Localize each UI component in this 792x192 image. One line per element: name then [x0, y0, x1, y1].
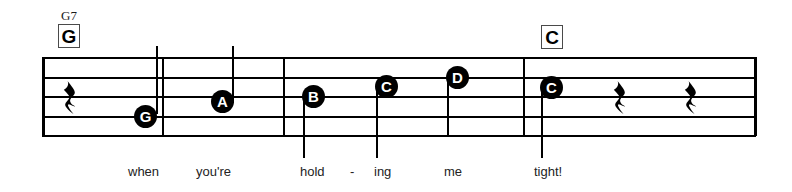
lyric-me: me: [444, 165, 462, 178]
barline-2: [283, 57, 285, 136]
note-g: G: [134, 105, 157, 128]
note-a-stem: [232, 46, 234, 103]
note-c-end-stem: [541, 86, 543, 158]
lyric-hold: hold: [300, 165, 325, 178]
note-c-mid-stem: [376, 85, 378, 158]
lyric-tight: tight!: [534, 165, 562, 178]
note-d: D: [446, 66, 469, 89]
rest-2: [613, 80, 629, 121]
rest-1: [63, 80, 79, 121]
staff-line-3: [42, 96, 756, 98]
staff-line-5: [42, 135, 756, 137]
barline-end: [754, 57, 757, 136]
staff-line-2: [42, 77, 756, 79]
note-a: A: [211, 90, 234, 113]
note-c-mid: C: [375, 75, 398, 98]
chord-g-box: G: [58, 24, 80, 48]
rest-3: [684, 80, 700, 121]
music-notation-sheet: G7GC GABCDC whenyou'rehold-ingmetight!: [0, 0, 792, 192]
staff-line-1: [42, 57, 756, 59]
note-g-stem: [156, 46, 158, 114]
note-b: B: [302, 85, 325, 108]
note-c-end: C: [540, 76, 563, 99]
barline-3: [523, 57, 525, 136]
chord-g-superscript: G7: [61, 9, 77, 22]
barline-1: [162, 57, 164, 136]
barline-start: [42, 57, 45, 136]
lyric-youre: you're: [196, 165, 231, 178]
lyric-hyphen: -: [350, 165, 354, 178]
lyric-ing: ing: [374, 165, 391, 178]
chord-c-box: C: [541, 25, 563, 49]
lyric-when: when: [128, 165, 159, 178]
